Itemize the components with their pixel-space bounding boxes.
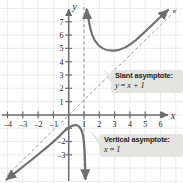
vertical-asymptote-callout: Vertical asymptote: x = 1 (100, 134, 183, 157)
svg-text:–1: –1 (49, 120, 58, 129)
svg-text:4: 4 (128, 120, 132, 129)
svg-text:5: 5 (60, 44, 64, 53)
slant-asymptote-equation: y = x + 1 (115, 81, 179, 90)
x-axis-label: x (170, 111, 176, 121)
vertical-equation-rhs: 1 (116, 145, 120, 154)
svg-text:2: 2 (97, 120, 101, 129)
svg-text:–4: –4 (3, 120, 12, 129)
svg-text:6: 6 (60, 31, 64, 40)
svg-text:3: 3 (60, 71, 64, 80)
svg-text:3: 3 (113, 120, 117, 129)
vertical-asymptote-callout-title: Vertical asymptote: (104, 136, 179, 144)
svg-text:5: 5 (143, 120, 147, 129)
slant-asymptote-callout: Slant asymptote: y = x + 1 (111, 70, 183, 93)
svg-text:6: 6 (159, 120, 163, 129)
vertical-asymptote-equation: x = 1 (104, 145, 179, 154)
svg-text:4: 4 (60, 58, 64, 67)
y-axis-label: y (72, 2, 78, 12)
slant-equation-rhs: x + 1 (127, 81, 144, 90)
rational-function-graph-figure: y x –4 –3 –2 –1 1 2 3 4 5 6 7 6 5 4 3 2 … (0, 0, 183, 183)
svg-text:–2: –2 (57, 137, 66, 146)
svg-text:7: 7 (60, 18, 64, 27)
svg-text:–2: –2 (34, 120, 43, 129)
svg-text:–3: –3 (57, 151, 66, 160)
svg-text:2: 2 (60, 84, 64, 93)
svg-text:1: 1 (82, 120, 86, 129)
svg-text:–3: –3 (18, 120, 27, 129)
slant-asymptote-callout-title: Slant asymptote: (115, 72, 179, 80)
svg-text:1: 1 (60, 98, 64, 107)
